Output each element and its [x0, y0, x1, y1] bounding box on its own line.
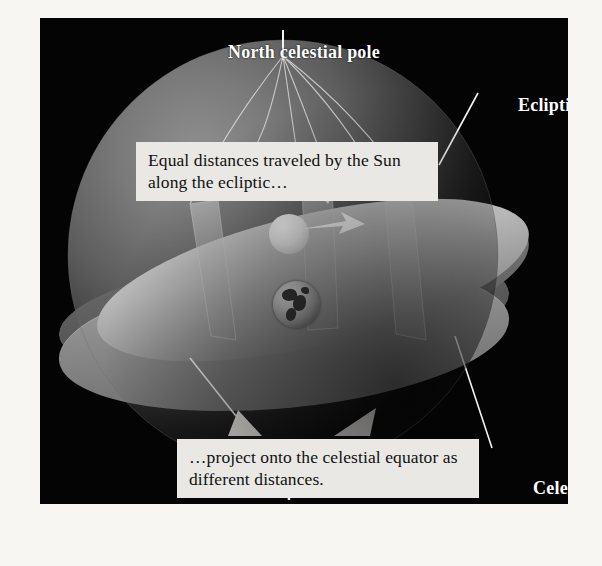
- astronomy-figure: Equal distances traveled by the Sun alon…: [0, 0, 602, 566]
- callout-project-onto-equator: …project onto the celestial equator as d…: [177, 439, 479, 498]
- figure-plate: Equal distances traveled by the Sun alon…: [40, 18, 568, 504]
- label-celestial-equator-line2: equator: [512, 500, 568, 504]
- sphere-shading: [68, 40, 498, 470]
- label-north-celestial-pole: North celestial pole: [228, 42, 380, 63]
- callout-equal-distances: Equal distances traveled by the Sun alon…: [136, 142, 438, 201]
- label-ecliptic: Ecliptic: [518, 95, 568, 116]
- label-celestial-equator: Celestial equator: [512, 478, 568, 504]
- label-celestial-equator-line1: Celestial: [512, 478, 568, 500]
